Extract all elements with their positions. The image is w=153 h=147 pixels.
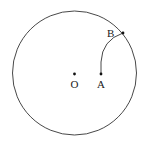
- label-b: B: [107, 27, 114, 39]
- geometry-diagram: O A B: [0, 0, 153, 147]
- point-o: [73, 73, 76, 76]
- label-a: A: [97, 78, 105, 90]
- arc-a-to-b: [101, 33, 123, 74]
- point-b: [122, 32, 125, 35]
- label-o: O: [71, 78, 79, 90]
- point-a: [100, 73, 103, 76]
